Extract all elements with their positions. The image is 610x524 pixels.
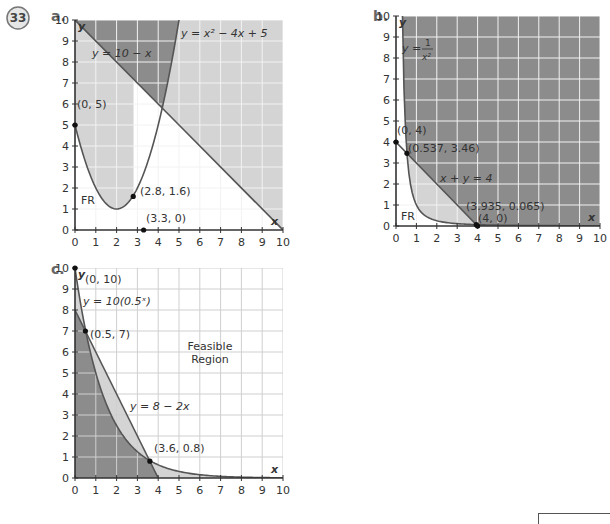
answer-box-edge <box>538 513 610 524</box>
x-tick-label: 9 <box>259 236 266 249</box>
data-point <box>393 139 398 144</box>
data-point <box>83 328 88 333</box>
y-axis-label: y <box>399 16 407 29</box>
y-tick-label: 7 <box>62 77 69 90</box>
point-label: (0.5, 7) <box>90 328 130 341</box>
x-tick-label: 4 <box>474 232 481 245</box>
problem-number-badge: 33 <box>7 7 29 29</box>
y-tick-label: 2 <box>62 182 69 195</box>
y-tick-label: 7 <box>383 73 390 86</box>
x-tick-label: 8 <box>556 232 563 245</box>
y-tick-label: 9 <box>62 35 69 48</box>
line-label: x + y = 4 <box>439 172 492 185</box>
line-label: y = 8 − 2x <box>129 400 190 413</box>
y-tick-label: 6 <box>62 98 69 111</box>
y-tick-label: 7 <box>62 325 69 338</box>
curve-label-denominator: x² <box>421 52 431 62</box>
y-tick-label: 10 <box>55 14 69 27</box>
x-tick-label: 10 <box>593 232 607 245</box>
point-label: (0.537, 3.46) <box>408 142 480 155</box>
x-tick-label: 2 <box>113 484 120 497</box>
y-tick-label: 8 <box>383 52 390 65</box>
data-point <box>72 265 77 270</box>
x-tick-label: 7 <box>217 484 224 497</box>
feasible-region-label: Feasible <box>188 340 233 353</box>
y-tick-label: 0 <box>62 472 69 485</box>
y-tick-label: 6 <box>62 346 69 359</box>
y-tick-label: 4 <box>383 136 390 149</box>
y-tick-label: 5 <box>62 119 69 132</box>
y-tick-label: 3 <box>62 409 69 422</box>
x-tick-label: 0 <box>72 484 79 497</box>
y-tick-label: 3 <box>62 161 69 174</box>
y-tick-label: 8 <box>62 56 69 69</box>
point-label: (2.8, 1.6) <box>140 185 191 198</box>
y-tick-label: 9 <box>383 31 390 44</box>
x-axis-label: x <box>270 463 279 476</box>
y-tick-label: 3 <box>383 157 390 170</box>
y-tick-label: 0 <box>383 220 390 233</box>
data-point <box>72 122 77 127</box>
x-tick-label: 2 <box>433 232 440 245</box>
point-label: (3.6, 0.8) <box>154 442 205 455</box>
x-tick-label: 3 <box>454 232 461 245</box>
x-tick-label: 7 <box>535 232 542 245</box>
data-point <box>141 227 146 232</box>
y-axis-label: y <box>78 20 86 33</box>
data-point <box>131 194 136 199</box>
feasible-region-label: FR <box>401 210 415 223</box>
curve-label: y = <box>401 42 421 55</box>
x-axis-label: x <box>270 215 279 228</box>
x-tick-label: 4 <box>155 236 162 249</box>
x-tick-label: 10 <box>276 484 290 497</box>
point-label: (0, 4) <box>397 124 427 137</box>
curve-label-numerator: 1 <box>425 38 431 48</box>
x-tick-label: 10 <box>276 236 290 249</box>
y-tick-label: 2 <box>383 178 390 191</box>
x-tick-label: 3 <box>134 484 141 497</box>
x-tick-label: 9 <box>259 484 266 497</box>
x-tick-label: 5 <box>176 484 183 497</box>
problem-number: 33 <box>10 11 27 25</box>
x-tick-label: 4 <box>155 484 162 497</box>
x-tick-label: 7 <box>217 236 224 249</box>
x-tick-label: 8 <box>238 236 245 249</box>
x-tick-label: 8 <box>238 484 245 497</box>
y-tick-label: 5 <box>62 367 69 380</box>
line-label: y = 10 − x <box>91 47 152 60</box>
curve-label: y = 10(0.5ˣ) <box>82 295 151 308</box>
y-tick-label: 4 <box>62 388 69 401</box>
y-tick-label: 10 <box>376 10 390 23</box>
point-label: (3.3, 0) <box>146 212 186 225</box>
feasible-region-label: Region <box>191 353 229 366</box>
feasible-region-label: FR <box>81 194 95 207</box>
x-tick-label: 9 <box>576 232 583 245</box>
y-tick-label: 6 <box>383 94 390 107</box>
parabola-label: y = x² − 4x + 5 <box>180 27 268 40</box>
point-label: (0, 10) <box>85 273 122 286</box>
x-tick-label: 5 <box>495 232 502 245</box>
x-tick-label: 5 <box>176 236 183 249</box>
y-tick-label: 0 <box>62 224 69 237</box>
x-tick-label: 2 <box>113 236 120 249</box>
data-point <box>147 459 152 464</box>
x-tick-label: 1 <box>92 236 99 249</box>
x-tick-label: 6 <box>196 236 203 249</box>
point-label: (0, 5) <box>77 98 107 111</box>
x-tick-label: 3 <box>134 236 141 249</box>
y-tick-label: 4 <box>62 140 69 153</box>
x-axis-label: x <box>587 211 596 224</box>
point-label: (4, 0) <box>478 212 508 225</box>
x-tick-label: 6 <box>515 232 522 245</box>
x-tick-label: 6 <box>196 484 203 497</box>
y-tick-label: 9 <box>62 283 69 296</box>
x-tick-label: 1 <box>92 484 99 497</box>
x-tick-label: 1 <box>413 232 420 245</box>
y-tick-label: 8 <box>62 304 69 317</box>
x-tick-label: 0 <box>72 236 79 249</box>
y-tick-label: 10 <box>55 262 69 275</box>
y-tick-label: 2 <box>62 430 69 443</box>
y-tick-label: 1 <box>62 203 69 216</box>
x-tick-label: 0 <box>393 232 400 245</box>
y-tick-label: 1 <box>383 199 390 212</box>
